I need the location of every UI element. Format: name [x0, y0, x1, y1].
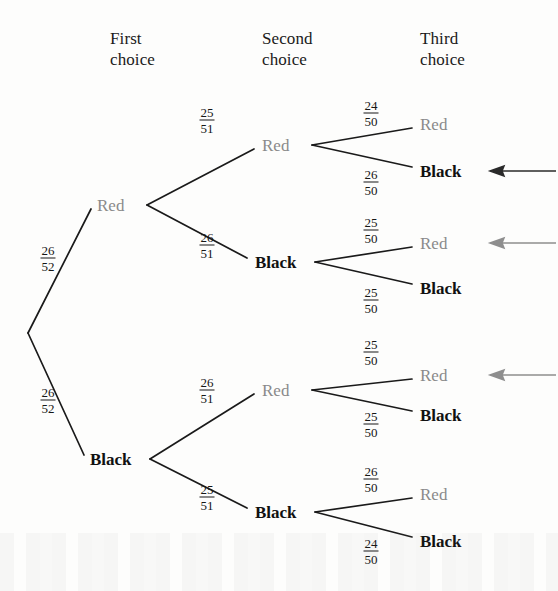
probability-l3-rbr: 2550 [364, 216, 379, 245]
denominator: 50 [364, 114, 379, 128]
denominator: 50 [364, 231, 379, 245]
node-l3-rbb: Black [420, 280, 462, 297]
numerator: 24 [364, 537, 379, 552]
edge-root-to-l1-black [28, 333, 84, 455]
edge-l2-red-red-to-l3-rrb [312, 145, 412, 167]
column-header-third: Third choice [420, 28, 465, 70]
numerator: 26 [364, 168, 379, 183]
node-l1-red: Red [97, 197, 124, 214]
denominator: 51 [200, 121, 215, 135]
node-l3-rrb: Black [420, 163, 462, 180]
edge-root-to-l1-red [28, 209, 91, 333]
denominator: 50 [364, 552, 379, 566]
edge-l2-red-black-to-l3-rbr [315, 247, 412, 262]
edge-l2-black-black-to-l3-bbb [315, 512, 412, 537]
numerator: 25 [364, 216, 379, 231]
denominator: 51 [200, 498, 215, 512]
probability-l1-red: 2652 [41, 244, 56, 273]
denominator: 51 [200, 391, 215, 405]
probability-l3-bbr: 2650 [364, 465, 379, 494]
denominator: 50 [364, 183, 379, 197]
probability-l2-black-red: 2651 [200, 376, 215, 405]
edge-group [28, 128, 412, 537]
denominator: 52 [41, 259, 56, 273]
node-l2-black-black: Black [255, 504, 297, 521]
probability-l3-bbb: 2450 [364, 537, 379, 566]
probability-tree-diagram: First choiceSecond choiceThird choice Re… [0, 0, 558, 591]
arrow-2-head [490, 238, 504, 248]
denominator: 50 [364, 353, 379, 367]
probability-l3-brr: 2550 [364, 338, 379, 367]
node-l1-black: Black [90, 451, 132, 468]
edge-l2-black-red-to-l3-brb [312, 390, 412, 411]
numerator: 25 [364, 286, 379, 301]
column-header-first: First choice [110, 28, 155, 70]
denominator: 50 [364, 480, 379, 494]
node-l3-rbr: Red [420, 235, 447, 252]
node-l2-black-red: Red [262, 382, 289, 399]
numerator: 25 [200, 106, 215, 121]
probability-l3-rbb: 2550 [364, 286, 379, 315]
edge-l1-red-to-l2-red-red [147, 149, 254, 205]
arrow-group [490, 166, 556, 380]
edge-l1-red-to-l2-red-black [147, 205, 247, 258]
probability-l2-red-black: 2651 [200, 231, 215, 260]
edge-l2-red-black-to-l3-rbb [315, 262, 412, 284]
node-l3-bbr: Red [420, 486, 447, 503]
probability-l3-rrr: 2450 [364, 99, 379, 128]
probability-l2-red-red: 2551 [200, 106, 215, 135]
node-l3-brr: Red [420, 367, 447, 384]
node-l2-red-red: Red [262, 137, 289, 154]
probability-l2-black-black: 2551 [200, 483, 215, 512]
denominator: 50 [364, 425, 379, 439]
node-l3-brb: Black [420, 407, 462, 424]
denominator: 50 [364, 301, 379, 315]
numerator: 25 [364, 410, 379, 425]
arrow-3-head [490, 370, 504, 380]
numerator: 25 [200, 483, 215, 498]
edge-l2-red-red-to-l3-rrr [312, 128, 412, 145]
edge-l2-black-black-to-l3-bbr [315, 498, 412, 512]
numerator: 26 [200, 376, 215, 391]
denominator: 51 [200, 246, 215, 260]
denominator: 52 [41, 401, 56, 415]
node-l2-red-black: Black [255, 254, 297, 271]
numerator: 26 [41, 386, 56, 401]
probability-l3-brb: 2550 [364, 410, 379, 439]
edge-l2-black-red-to-l3-brr [312, 379, 412, 390]
node-l3-rrr: Red [420, 116, 447, 133]
numerator: 26 [364, 465, 379, 480]
numerator: 26 [200, 231, 215, 246]
arrow-1-head [490, 166, 504, 176]
numerator: 24 [364, 99, 379, 114]
edge-l1-black-to-l2-black-black [150, 459, 247, 508]
numerator: 25 [364, 338, 379, 353]
numerator: 26 [41, 244, 56, 259]
column-header-second: Second choice [262, 28, 313, 70]
probability-l1-black: 2652 [41, 386, 56, 415]
node-l3-bbb: Black [420, 533, 462, 550]
probability-l3-rrb: 2650 [364, 168, 379, 197]
